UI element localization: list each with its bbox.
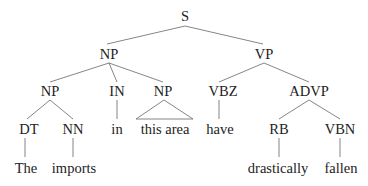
node-s: S — [181, 9, 189, 24]
edge — [50, 63, 109, 82]
word-the: The — [15, 161, 38, 176]
node-vbz: VBZ — [209, 84, 238, 99]
node-in: IN — [109, 84, 124, 99]
word-imports: imports — [52, 161, 96, 176]
edge — [50, 100, 73, 119]
node-np: NP — [154, 84, 173, 99]
triangle-edge — [136, 100, 193, 119]
node-vp: VP — [255, 47, 274, 62]
node-nn: NN — [63, 122, 84, 137]
word-drastically: drastically — [248, 161, 308, 176]
edge — [107, 26, 185, 44]
edge — [109, 63, 163, 82]
node-np: NP — [41, 84, 60, 99]
edge — [279, 100, 309, 119]
edge — [264, 63, 309, 82]
word-fallen: fallen — [324, 161, 357, 176]
node-advp: ADVP — [289, 84, 328, 99]
node-vbn: VBN — [325, 122, 356, 137]
word-this-area: this area — [141, 122, 190, 137]
node-np: NP — [100, 47, 119, 62]
edge — [219, 63, 264, 82]
word-in: in — [111, 122, 122, 137]
edge — [309, 100, 340, 119]
node-dt: DT — [19, 122, 38, 137]
edge — [185, 26, 263, 44]
edge — [27, 100, 50, 119]
word-have: have — [206, 122, 233, 137]
node-rb: RB — [269, 122, 288, 137]
